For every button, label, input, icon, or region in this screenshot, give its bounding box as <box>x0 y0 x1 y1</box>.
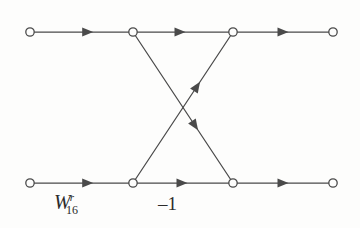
bottom-right-output-node <box>329 179 337 187</box>
twiddle-superscript: r <box>70 191 74 203</box>
bottom-first-junction-node <box>129 179 137 187</box>
butterfly-diagram-figure: Wr16 –1 <box>0 0 360 228</box>
minus-one-label: –1 <box>158 194 177 213</box>
twiddle-factor-label: Wr16 <box>54 192 78 216</box>
bottom-middle-segment-arrowhead-icon <box>177 178 188 187</box>
twiddle-subscript: 16 <box>66 203 78 217</box>
node-layer <box>26 28 337 187</box>
arrowhead-layer <box>82 27 288 187</box>
descending-cross-diagonal-arrowhead-icon <box>188 118 198 130</box>
top-left-segment-arrowhead-icon <box>82 27 93 36</box>
bottom-second-junction-node <box>229 179 237 187</box>
top-second-junction-node <box>229 28 237 36</box>
ascending-cross-diagonal-arrowhead-icon <box>190 82 200 94</box>
top-left-input-node <box>26 28 34 36</box>
top-first-junction-node <box>129 28 137 36</box>
top-right-segment-arrowhead-icon <box>278 27 289 36</box>
edge-layer <box>34 32 329 183</box>
bottom-right-segment-arrowhead-icon <box>278 178 289 187</box>
top-right-output-node <box>329 28 337 36</box>
bottom-left-segment-arrowhead-icon <box>82 178 93 187</box>
top-middle-segment-arrowhead-icon <box>175 27 186 36</box>
bottom-left-input-node <box>26 179 34 187</box>
